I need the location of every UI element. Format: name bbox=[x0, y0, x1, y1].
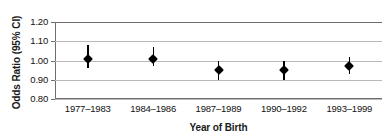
point-marker bbox=[148, 54, 158, 64]
point-marker bbox=[279, 65, 289, 75]
point-marker bbox=[214, 65, 224, 75]
x-axis-tick-label: 1993–1999 bbox=[326, 103, 372, 114]
y-axis-tick-labels: 1.201.101.000.900.80 bbox=[22, 0, 48, 140]
gridline bbox=[55, 22, 382, 23]
y-axis-tick-label: 1.00 bbox=[22, 55, 48, 66]
x-axis-tick-label: 1990–1992 bbox=[261, 103, 307, 114]
plot-area bbox=[55, 22, 382, 99]
y-axis-tick-mark bbox=[51, 99, 55, 100]
point-marker bbox=[344, 61, 354, 71]
gridline bbox=[55, 99, 382, 100]
y-axis-tick-label: 1.10 bbox=[22, 35, 48, 46]
x-axis-title: Year of Birth bbox=[55, 122, 382, 133]
y-axis-tick-mark bbox=[51, 61, 55, 62]
x-axis-tick-label: 1987–1989 bbox=[196, 103, 242, 114]
point-marker bbox=[83, 54, 93, 64]
y-axis-tick-label: 0.90 bbox=[22, 74, 48, 85]
x-axis-tick-label: 1977–1983 bbox=[65, 103, 111, 114]
odds-ratio-chart: Odds Ratio (95% CI) 1.201.101.000.900.80… bbox=[0, 0, 392, 140]
y-axis-tick-mark bbox=[51, 80, 55, 81]
y-axis-tick-mark bbox=[51, 41, 55, 42]
y-axis-title: Odds Ratio (95% CI) bbox=[11, 3, 22, 123]
y-axis-tick-mark bbox=[51, 22, 55, 23]
gridline bbox=[55, 80, 382, 81]
x-axis-tick-label: 1984–1986 bbox=[130, 103, 176, 114]
x-axis-tick-labels: 1977–19831984–19861987–19891990–19921993… bbox=[55, 103, 382, 117]
y-axis-tick-label: 1.20 bbox=[22, 16, 48, 27]
y-axis-tick-label: 0.80 bbox=[22, 93, 48, 104]
gridline bbox=[55, 41, 382, 42]
